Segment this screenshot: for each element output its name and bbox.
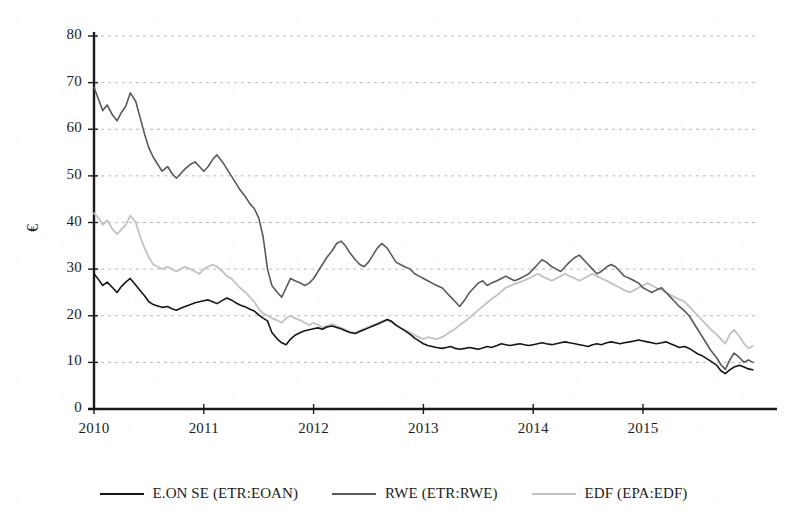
chart-legend: E.ON SE (ETR:EOAN)RWE (ETR:RWE)EDF (EPA:…	[0, 485, 787, 502]
legend-color-swatch	[532, 493, 576, 495]
y-axis-tick-label: 10	[40, 352, 82, 369]
x-axis-tick-label: 2012	[284, 420, 344, 437]
legend-color-swatch	[332, 493, 376, 495]
x-axis-tick-label: 2013	[393, 420, 453, 437]
gridlines	[94, 36, 755, 362]
y-axis-tick-label: 50	[40, 166, 82, 183]
y-axis-tick-label: 0	[40, 399, 82, 416]
y-axis-tick-label: 40	[40, 213, 82, 230]
axis-ticks	[88, 36, 643, 414]
legend-item[interactable]: E.ON SE (ETR:EOAN)	[100, 485, 299, 502]
x-axis-tick-label: 2014	[503, 420, 563, 437]
x-axis-tick-label: 2011	[174, 420, 234, 437]
series-line	[94, 213, 753, 348]
legend-label: RWE (ETR:RWE)	[385, 485, 498, 502]
y-axis-tick-label: 80	[40, 26, 82, 43]
legend-label: E.ON SE (ETR:EOAN)	[153, 485, 299, 502]
y-axis-tick-label: 30	[40, 259, 82, 276]
y-axis-title: €	[24, 217, 42, 239]
y-axis-tick-label: 70	[40, 73, 82, 90]
legend-item[interactable]: EDF (EPA:EDF)	[532, 485, 688, 502]
legend-color-swatch	[100, 493, 144, 495]
y-axis-tick-label: 60	[40, 119, 82, 136]
legend-label: EDF (EPA:EDF)	[585, 485, 688, 502]
x-axis-tick-label: 2015	[613, 420, 673, 437]
axis-lines	[88, 32, 777, 409]
y-axis-tick-label: 20	[40, 306, 82, 323]
data-series	[94, 87, 753, 373]
legend-item[interactable]: RWE (ETR:RWE)	[332, 485, 498, 502]
plot-canvas	[0, 0, 787, 529]
x-axis-tick-label: 2010	[64, 420, 124, 437]
series-line	[94, 274, 753, 374]
stock-price-line-chart: 01020304050607080 2010201120122013201420…	[0, 0, 787, 529]
